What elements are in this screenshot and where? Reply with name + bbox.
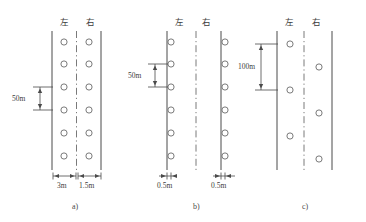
panel-c-marker-left — [287, 41, 293, 47]
panel-a-marker-right — [86, 84, 92, 90]
panel-a-caption: a) — [72, 203, 78, 211]
panel-b-marker-right — [222, 153, 228, 159]
panel-a-marker-left — [61, 130, 67, 136]
panel-b-marker-right — [222, 39, 228, 45]
panel-b-caption: b) — [193, 203, 200, 211]
panel-a-marker-right — [86, 130, 92, 136]
panel-a-marker-left — [61, 153, 67, 159]
panel-b-marker-right — [222, 130, 228, 136]
panel-a-arrow-down — [38, 104, 42, 109]
panel-b-arrow-up — [153, 66, 157, 71]
panel-a-marker-right — [86, 107, 92, 113]
panel-a-dim-label-3m: 3m — [57, 182, 67, 190]
panel-b-arrow-left-out — [161, 174, 166, 178]
panel-c-dim-label-vertical: 100m — [238, 63, 255, 71]
panel-b-arrow-left-in — [172, 174, 177, 178]
panel-b-marker-right — [222, 61, 228, 67]
panel-c-marker-left — [287, 87, 293, 93]
panel-b-marker-left — [168, 61, 174, 67]
panel-b-marker-left — [168, 84, 174, 90]
panel-a-marker-left — [61, 107, 67, 113]
panel-b-arrow-right-in — [226, 174, 231, 178]
panel-a-dim-label-15m: 1.5m — [79, 182, 94, 190]
panel-a-arrow-15m-right — [95, 174, 100, 178]
panel-a-arrow-3m-right — [70, 174, 75, 178]
panel-b-marker-left — [168, 153, 174, 159]
panel-c-marker-left — [287, 133, 293, 139]
panel-c-marker-right — [316, 110, 322, 116]
panel-c-arrow-down — [259, 84, 263, 89]
panel-b-marker-left — [168, 130, 174, 136]
panel-a-marker-right — [86, 153, 92, 159]
panel-b-marker-left — [168, 107, 174, 113]
panel-b-dim-label-vertical: 50m — [128, 72, 141, 80]
panel-a-marker-left — [61, 61, 67, 67]
panel-c-caption: c) — [302, 203, 308, 211]
panel-a-marker-left — [61, 84, 67, 90]
panel-c-arrow-up — [259, 46, 263, 51]
figure-container: 左 右 — [0, 0, 366, 222]
panel-a-marker-left — [61, 39, 67, 45]
panel-b-marker-left — [168, 39, 174, 45]
panel-c-marker-right — [316, 64, 322, 70]
panel-c-marker-right — [316, 156, 322, 162]
panel-a-marker-right — [86, 61, 92, 67]
panel-b-arrow-right-out — [215, 174, 220, 178]
panel-a-arrow-up — [38, 89, 42, 94]
panel-b-dim-label-left: 0.5m — [157, 182, 172, 190]
panel-b-drawing — [120, 0, 250, 222]
panel-b-arrow-down — [153, 81, 157, 86]
panel-b-dim-label-right: 0.5m — [211, 182, 226, 190]
panel-a-arrow-3m-left — [55, 174, 60, 178]
panel-b-marker-right — [222, 107, 228, 113]
panel-a-arrow-15m-left — [80, 174, 85, 178]
panel-b-marker-right — [222, 84, 228, 90]
panel-a-marker-right — [86, 39, 92, 45]
panel-c: 左 右 100m c) — [240, 0, 366, 222]
panel-b: 左 右 — [120, 0, 250, 222]
panel-a-dim-label-vertical: 50m — [12, 95, 25, 103]
panel-a: 左 右 — [0, 0, 130, 222]
panel-c-drawing — [240, 0, 366, 222]
